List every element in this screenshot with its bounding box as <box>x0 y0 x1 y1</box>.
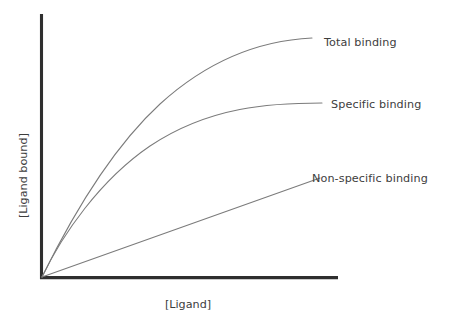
curve-specific-binding <box>42 103 322 277</box>
series-label-non-specific-binding: Non-specific binding <box>312 173 428 184</box>
y-axis-label: [Ligand bound] <box>18 121 29 231</box>
plot-area <box>0 0 470 326</box>
curve-non-specific-binding <box>42 178 320 277</box>
binding-curve-figure: Total binding Specific binding Non-speci… <box>0 0 470 326</box>
x-axis-label: [Ligand] <box>0 299 376 310</box>
series-label-specific-binding: Specific binding <box>331 99 421 110</box>
curve-total-binding <box>42 38 312 277</box>
series-label-total-binding: Total binding <box>324 37 397 48</box>
